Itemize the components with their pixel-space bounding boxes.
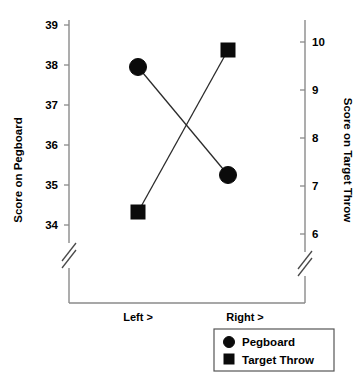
left-y-axis: 39 38 37 36 35 34 Score on Pegboard [12,19,76,303]
x-axis: Left > Right > [69,303,305,323]
legend-marker-square-icon [224,354,234,364]
right-tick-label-6: 6 [312,228,318,240]
left-tick-label-36: 36 [45,139,58,151]
right-tick-label-7: 7 [312,180,318,192]
right-tick-label-8: 8 [312,132,319,144]
x-axis-label-left: Left > [123,311,153,323]
right-tick-label-10: 10 [312,36,325,48]
right-axis-break-icon [298,251,312,276]
left-tick-label-34: 34 [45,219,58,231]
data-point-target-throw-left [131,205,145,219]
left-tick-label-39: 39 [45,19,58,31]
right-axis-title: Score on Target Throw [342,98,354,222]
right-y-axis: 10 9 8 7 6 Score on Target Throw [298,20,354,303]
data-point-target-throw-right [221,43,235,57]
data-point-pegboard-right [220,167,237,184]
series-target-throw-line [138,50,228,212]
legend-label-target-throw: Target Throw [242,354,314,366]
left-tick-label-35: 35 [45,179,58,191]
legend: Pegboard Target Throw [214,329,334,371]
x-axis-label-right: Right > [226,311,264,323]
left-tick-label-37: 37 [45,99,58,111]
right-tick-label-9: 9 [312,84,318,96]
chart-canvas: 39 38 37 36 35 34 Score on Pegboard 10 9… [0,0,362,379]
legend-marker-circle-icon [224,337,235,348]
left-axis-break-icon [62,243,76,268]
legend-label-pegboard: Pegboard [242,336,295,348]
series-pegboard-line [138,67,228,175]
left-axis-title: Score on Pegboard [12,117,24,222]
series-pegboard [130,59,237,184]
data-point-pegboard-left [130,59,147,76]
left-tick-label-38: 38 [45,59,58,71]
